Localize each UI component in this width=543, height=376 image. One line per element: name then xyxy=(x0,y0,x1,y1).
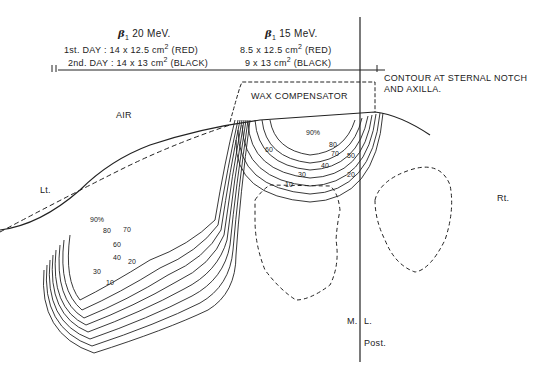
isodose-label-center-90: 90% xyxy=(306,129,320,136)
isodose-label-left-10: 10 xyxy=(106,279,114,286)
isodose-curves-center xyxy=(236,113,383,202)
isodose-label-center-30: 30 xyxy=(298,171,306,178)
isodose-curves-left xyxy=(43,120,250,353)
isodose-label-left-30: 30 xyxy=(93,268,101,275)
body-contour xyxy=(0,112,430,230)
isodose-label-center-40: 40 xyxy=(321,162,329,169)
isodose-label-center-70: 70 xyxy=(331,150,339,157)
wax-compensator-outline xyxy=(230,82,375,122)
isodose-label-center-60: 60 xyxy=(265,146,273,153)
isodose-label-center-10: 10 xyxy=(285,181,293,188)
right-lung-outline xyxy=(375,167,452,272)
isodose-label-left-70: 70 xyxy=(123,226,131,233)
left-lung-outline xyxy=(255,185,340,300)
isodose-label-center-20: 20 xyxy=(347,171,355,178)
left-tick xyxy=(52,65,56,72)
isodose-label-left-80: 80 xyxy=(103,227,111,234)
isodose-label-center-80: 80 xyxy=(329,141,337,148)
isodose-label-left-90: 90% xyxy=(90,216,104,223)
isodose-label-center-50: 50 xyxy=(347,152,355,159)
isodose-label-left-60: 60 xyxy=(113,241,121,248)
isodose-label-left-20: 20 xyxy=(128,258,136,265)
isodose-diagram: 90% 80 70 60 40 30 20 10 90% 80 70 60 50… xyxy=(0,0,543,376)
isodose-label-left-40: 40 xyxy=(113,254,121,261)
dashed-contour-left xyxy=(0,125,230,232)
